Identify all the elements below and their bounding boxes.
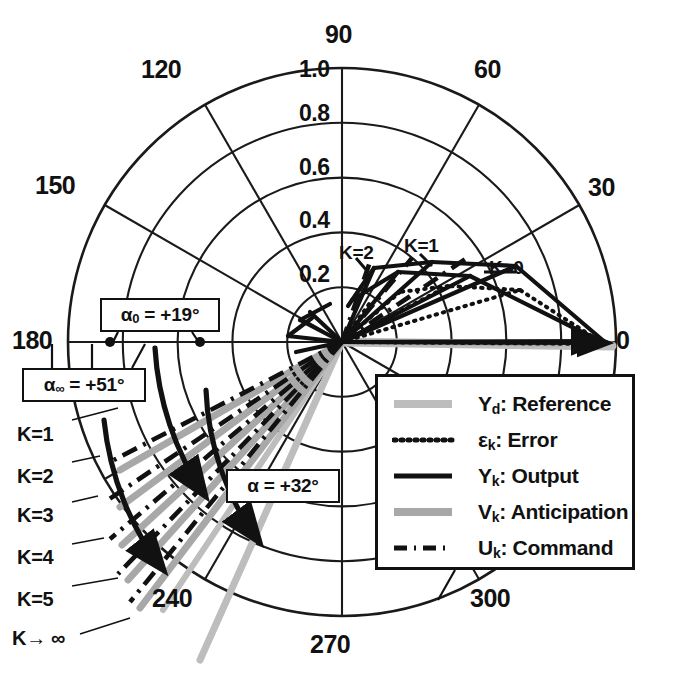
axis-dot-2 xyxy=(195,337,205,347)
legend-row-command: Uk: Command xyxy=(378,530,632,566)
output-chord-4 xyxy=(398,272,470,276)
angle-label-0: 0 xyxy=(616,328,629,353)
angle-label-60: 60 xyxy=(474,57,501,82)
k-label-k-infinity: K→ ∞ xyxy=(12,628,65,648)
legend-row-reference: Yd: Reference xyxy=(378,386,632,422)
radial-label-0.6: 0.6 xyxy=(299,156,329,179)
output-chord-2 xyxy=(470,276,600,341)
legend-swatch-anticipation-icon xyxy=(392,505,464,519)
angle-label-180: 180 xyxy=(12,328,52,353)
angle-label-90: 90 xyxy=(325,22,352,47)
legend-swatch-reference-icon xyxy=(392,397,464,411)
legend-swatch-command-icon xyxy=(392,541,464,555)
legend-swatch-error-icon xyxy=(392,433,464,447)
axis-dot-1 xyxy=(105,337,115,347)
angle-label-300: 300 xyxy=(470,586,510,611)
angle-label-240: 240 xyxy=(152,586,192,611)
callout-alpha-infinity: α∞ = +51° xyxy=(22,368,146,402)
k3-leader xyxy=(72,496,98,502)
callout-alpha-text: α = +32° xyxy=(247,475,319,497)
k-label-k0-inner: K=0 xyxy=(489,258,523,277)
chart-legend: Yd: Reference εk: Error Yk: Output Vk: A… xyxy=(375,374,635,570)
radial-label-1.0: 1.0 xyxy=(299,58,329,81)
command-k4 xyxy=(118,342,342,574)
callout-alpha-zero: α0 = +19° xyxy=(100,298,220,332)
k-label-k3: K=3 xyxy=(17,505,53,525)
radial-label-0.2: 0.2 xyxy=(299,263,329,286)
legend-row-error: εk: Error xyxy=(378,422,632,458)
k-label-k1: K=1 xyxy=(17,424,53,444)
k-label-k4: K=4 xyxy=(17,547,53,567)
k-label-leaders xyxy=(72,408,130,634)
polar-chart-canvas xyxy=(0,0,673,687)
k-label-k2: K=2 xyxy=(17,466,53,486)
callout-alpha-zero-text: α0 = +19° xyxy=(121,304,200,326)
angle-label-270: 270 xyxy=(310,632,350,657)
k-label-k2-inner: K=2 xyxy=(339,243,373,262)
k4-leader xyxy=(72,538,104,544)
k-label-k5: K=5 xyxy=(17,589,53,609)
callout-alpha: α = +32° xyxy=(226,469,340,503)
legend-label-error: εk: Error xyxy=(478,428,557,453)
callout-leaders xyxy=(52,332,205,368)
radial-label-0.8: 0.8 xyxy=(299,102,329,125)
legend-label-reference: Yd: Reference xyxy=(478,392,611,417)
radial-label-0.4: 0.4 xyxy=(299,209,329,232)
polar-plot-figure: 90 120 60 150 30 180 0 240 270 300 1.0 0… xyxy=(0,0,673,687)
legend-swatch-output-icon xyxy=(392,469,464,483)
angle-label-30: 30 xyxy=(588,175,615,200)
kinf-leader xyxy=(80,618,130,634)
angle-label-120: 120 xyxy=(141,57,181,82)
legend-label-command: Uk: Command xyxy=(478,536,613,561)
leader-alphainf-right xyxy=(132,344,145,368)
legend-row-output: Yk: Output xyxy=(378,458,632,494)
k-label-k1-inner: K=1 xyxy=(404,236,438,255)
k5-leader xyxy=(72,578,118,586)
legend-label-anticipation: Vk: Anticipation xyxy=(478,500,628,525)
callout-alpha-infinity-text: α∞ = +51° xyxy=(44,374,125,396)
angle-label-150: 150 xyxy=(35,173,75,198)
legend-label-output: Yk: Output xyxy=(478,464,578,489)
legend-row-anticipation: Vk: Anticipation xyxy=(378,494,632,530)
